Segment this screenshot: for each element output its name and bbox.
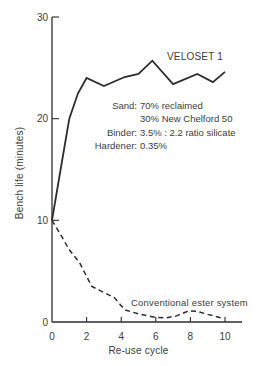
conventional-series-label: Conventional ester system xyxy=(131,297,248,308)
x-tick-label: 0 xyxy=(49,331,55,342)
composition-note: Sand: 70% reclaimed 30% New Chelford 50 … xyxy=(60,99,236,153)
note-value-hardener: 0.35% xyxy=(140,139,167,152)
x-tick-label: 8 xyxy=(188,331,194,342)
y-tick-label: 30 xyxy=(37,12,49,23)
x-axis-label: Re-use cycle xyxy=(52,345,225,356)
note-label-binder: Binder: xyxy=(60,126,137,139)
veloset-series-label: VELOSET 1 xyxy=(167,51,223,62)
y-axis-ticks: 0102030 xyxy=(37,12,59,328)
note-row-hardener: Hardener: 0.35% xyxy=(60,139,236,152)
x-tick-label: 6 xyxy=(153,331,159,342)
x-tick-label: 4 xyxy=(118,331,124,342)
note-label-sand: Sand: xyxy=(60,99,137,112)
x-tick-label: 2 xyxy=(84,331,90,342)
x-axis-ticks: 0246810 xyxy=(49,317,231,342)
y-tick-label: 10 xyxy=(37,215,49,226)
note-row-sand-2: 30% New Chelford 50 xyxy=(60,112,236,125)
note-label-blank xyxy=(60,112,137,125)
bench-life-chart: 0102030 0246810 Bench life (minutes) Re-… xyxy=(0,0,258,366)
y-axis-label: Bench life (minutes) xyxy=(14,127,25,219)
y-tick-label: 0 xyxy=(42,317,48,328)
axes xyxy=(52,17,242,322)
note-value-sand-2: 30% New Chelford 50 xyxy=(140,112,232,125)
note-value-binder: 3.5% : 2.2 ratio silicate xyxy=(140,126,236,139)
note-row-binder: Binder: 3.5% : 2.2 ratio silicate xyxy=(60,126,236,139)
note-label-hardener: Hardener: xyxy=(60,139,137,152)
y-tick-label: 20 xyxy=(37,113,49,124)
x-tick-label: 10 xyxy=(219,331,231,342)
note-value-sand: 70% reclaimed xyxy=(140,99,203,112)
note-row-sand: Sand: 70% reclaimed xyxy=(60,99,236,112)
